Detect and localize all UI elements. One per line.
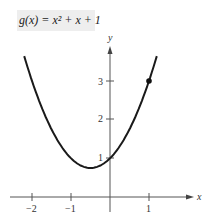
point-marker (146, 78, 152, 84)
x-tick-label: −2 (26, 203, 37, 214)
x-axis-arrow-icon (186, 195, 194, 200)
y-tick-label: 3 (98, 76, 103, 87)
parabola-plot: −2 −1 1 1 2 3 x y (0, 0, 208, 221)
x-tick-label: −1 (65, 203, 76, 214)
y-axis-label: y (107, 32, 113, 43)
x-tick-label: 1 (146, 203, 151, 214)
parabola-curve (24, 56, 157, 168)
x-axis-label: x (196, 191, 202, 202)
y-axis-arrow-icon (108, 46, 113, 54)
y-tick-label: 2 (98, 113, 103, 124)
y-tick-label: 1 (98, 152, 103, 163)
